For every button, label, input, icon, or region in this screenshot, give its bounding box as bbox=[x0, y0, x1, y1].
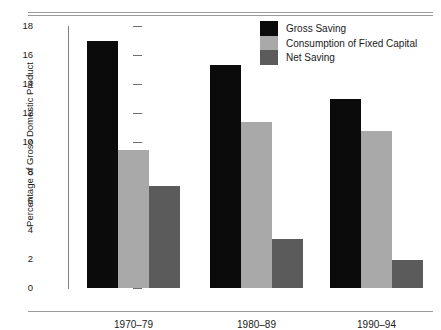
legend-label-gross-saving: Gross Saving bbox=[286, 22, 346, 35]
y-tick-label: 14 bbox=[9, 79, 33, 89]
bar bbox=[149, 186, 180, 288]
bar bbox=[330, 99, 361, 288]
y-tick-label: 10 bbox=[9, 137, 33, 147]
legend-label-consumption-of-fixed-capital: Consumption of Fixed Capital bbox=[286, 37, 417, 50]
plot-area: 024681012141618 1970–791980–891990–94 bbox=[69, 26, 431, 288]
y-tick-label: 16 bbox=[9, 50, 33, 60]
x-axis-label: 1970–79 bbox=[74, 319, 194, 330]
bar bbox=[272, 239, 303, 288]
bar bbox=[87, 41, 118, 288]
legend-swatch-gross-saving bbox=[260, 21, 278, 36]
legend-swatch-net-saving bbox=[260, 50, 278, 65]
bar bbox=[392, 260, 423, 288]
y-tick-label: 4 bbox=[9, 225, 33, 235]
bar-series-container bbox=[69, 26, 431, 288]
y-tick-label: 12 bbox=[9, 108, 33, 118]
y-tick-label: 18 bbox=[9, 21, 33, 31]
y-tick-label: 0 bbox=[9, 283, 33, 293]
x-axis-label: 1980–89 bbox=[197, 319, 317, 330]
bar bbox=[118, 150, 149, 288]
bottom-rule bbox=[28, 311, 433, 312]
legend-swatch-consumption-of-fixed-capital bbox=[260, 36, 278, 51]
bar bbox=[241, 122, 272, 288]
bar bbox=[361, 131, 392, 288]
top-rule-upper bbox=[28, 12, 433, 13]
bar bbox=[210, 65, 241, 288]
x-axis-label: 1990–94 bbox=[317, 319, 437, 330]
legend-label-net-saving: Net Saving bbox=[286, 51, 335, 64]
y-tick-label: 6 bbox=[9, 196, 33, 206]
y-tick-mark bbox=[133, 288, 142, 289]
y-tick-label: 2 bbox=[9, 254, 33, 264]
y-tick-label: 8 bbox=[9, 167, 33, 177]
top-rule-lower bbox=[28, 15, 433, 16]
